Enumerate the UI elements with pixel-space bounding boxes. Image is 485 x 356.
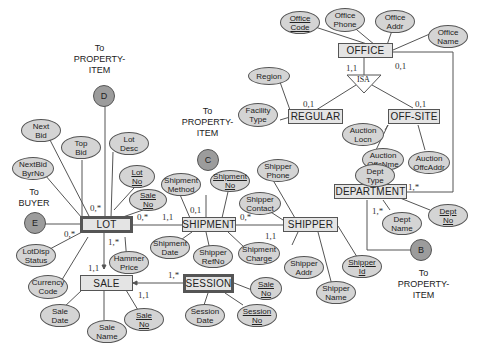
- attr-shipper-name: ShipperName: [316, 281, 356, 304]
- attr-shipper-id: ShipperId: [342, 255, 382, 278]
- attr-office-name: OfficeName: [428, 25, 468, 48]
- attr-lotdisp-status: LotDispStatus: [16, 244, 56, 267]
- entity-sale: SALE: [80, 275, 133, 291]
- attr-lot-sale-no: SaleNo: [129, 189, 167, 211]
- note-to-buyer: ToBUYER: [14, 187, 54, 209]
- attr-session-date: SessionDate: [185, 304, 225, 327]
- attr-sale-date: SaleDate: [40, 304, 80, 327]
- card-sale-session: 1,1: [138, 290, 149, 300]
- attr-lot-no: LotNo: [119, 165, 155, 188]
- note-to-property-item-b: ToPROPERTY-ITEM: [396, 268, 451, 301]
- entity-regular: REGULAR: [288, 109, 343, 124]
- attr-office-code: OfficeCode: [280, 11, 320, 34]
- entity-session: SESSION: [183, 274, 234, 293]
- isa-label: ISA: [357, 75, 370, 84]
- attr-shipper-addr: ShipperAddr: [284, 256, 324, 279]
- attr-shipment-no: ShipmentNo: [210, 170, 250, 192]
- attr-shipment-charge: ShipmentCharge: [238, 242, 280, 265]
- card-dept-b: 1,*: [372, 206, 383, 216]
- attr-next-bid: NextBid: [21, 119, 61, 142]
- entity-shipment: SHIPMENT: [182, 217, 236, 232]
- entity-office: OFFICE: [338, 43, 393, 58]
- attr-shipment-date: ShipmentDate: [150, 236, 190, 259]
- entity-lot: LOT: [80, 216, 133, 233]
- attr-auction-locn: AuctionLocn: [342, 123, 384, 146]
- attr-office-phone: OfficePhone: [325, 8, 365, 32]
- card-lot-e: 0,*: [64, 229, 75, 239]
- attr-dept-name: DeptName: [382, 212, 422, 235]
- attr-shipper-phone: ShipperPhone: [257, 159, 299, 182]
- card-lot-d: 0,*: [90, 203, 101, 213]
- card-shipper-shipment: 0,*: [240, 212, 251, 222]
- card-lot-sale: 1,*: [108, 237, 119, 247]
- attr-shipper-refno: ShipperRefNo: [193, 245, 233, 268]
- card-shipment-c: 0,1: [190, 205, 201, 215]
- card-isa-regular: 0,1: [303, 99, 314, 109]
- note-to-property-item-d: ToPROPERTY-ITEM: [72, 43, 127, 76]
- connector-c: C: [197, 149, 219, 171]
- attr-shipment-method: ShipmentMethod: [161, 173, 201, 196]
- attr-hammer-price: HammerPrice: [109, 251, 149, 274]
- attr-session-sale-no: SaleNo: [250, 277, 282, 300]
- entity-offsite: OFF-SITE: [388, 109, 440, 124]
- attr-auction-offcaddr: AuctionOffcAddr: [408, 151, 450, 174]
- card-shipment-lot: 1,1: [162, 212, 173, 222]
- note-to-property-item-c: ToPROPERTY-ITEM: [180, 106, 235, 139]
- attr-nextbid-byrno: NextBidByrNo: [12, 157, 54, 180]
- er-diagram: OFFICE ISA REGULAR OFF-SITE DEPARTMENT L…: [0, 0, 485, 356]
- card-sale-lot: 1,1: [88, 263, 99, 273]
- connector-e: E: [24, 212, 46, 234]
- card-lot-shipment: 0,*: [137, 212, 148, 222]
- attr-region: Region: [248, 67, 290, 85]
- connector-d: D: [93, 85, 115, 107]
- card-dept-office: 1,*: [408, 182, 419, 192]
- attr-office-addr: OfficeAddr: [375, 10, 415, 33]
- attr-session-no: SessionNo: [237, 304, 277, 327]
- attr-sale-no: SaleNo: [124, 308, 164, 331]
- attr-dept-type: DeptType: [355, 164, 395, 187]
- card-session-sale: 1,*: [168, 270, 179, 280]
- card-office-dept: 0,1: [395, 61, 406, 71]
- attr-top-bid: TopBid: [61, 136, 101, 159]
- attr-lot-desc: LotDesc: [109, 132, 149, 155]
- attr-currency-code: CurrencyCode: [28, 275, 68, 299]
- attr-facility-type: FacilityType: [238, 103, 278, 127]
- entity-shipper: SHIPPER: [283, 217, 338, 232]
- connector-b: B: [410, 239, 432, 261]
- attr-sale-name: SaleName: [87, 320, 127, 343]
- card-office-isa: 1,1: [346, 63, 357, 73]
- attr-dept-no: DeptNo: [428, 204, 468, 227]
- card-isa-offsite: 0,1: [415, 99, 426, 109]
- card-shipment-shipper: 1,1: [265, 231, 276, 241]
